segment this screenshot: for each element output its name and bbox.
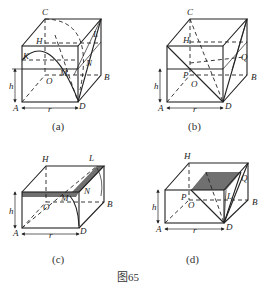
hidden-diagonal-edge — [165, 200, 189, 223]
front-face — [22, 192, 79, 228]
label-H: H — [41, 154, 49, 164]
label-A: A — [155, 224, 162, 234]
label-D: D — [79, 226, 87, 236]
hidden-diagonal-edge — [22, 75, 45, 102]
label-H: H — [182, 35, 190, 45]
label-P: P — [182, 70, 189, 80]
label-C: C — [187, 7, 194, 17]
label-h: h — [154, 81, 159, 91]
panel-caption-b: (b) — [188, 120, 201, 133]
figure-caption: 图65 — [117, 271, 140, 283]
label-N: N — [83, 186, 91, 196]
label-h: h — [9, 81, 14, 91]
label-P: P — [180, 192, 187, 202]
label-B: B — [252, 197, 258, 207]
label-H: H — [35, 36, 43, 46]
arc-front — [70, 196, 79, 226]
label-O: O — [46, 76, 53, 86]
label-C: C — [42, 7, 49, 17]
panel-b: C H Q P O B A D h r (b) — [154, 7, 257, 133]
label-Q: Q — [241, 173, 248, 183]
label-M: M — [60, 193, 69, 203]
label-A: A — [12, 228, 19, 238]
panel-caption-d: (d) — [186, 253, 199, 266]
label-L: L — [226, 191, 232, 201]
panel-a: C H L K N M O B A D h r (a) — [9, 7, 110, 133]
label-Q: Q — [241, 52, 248, 62]
label-H: H — [183, 151, 191, 161]
panel-caption-c: (c) — [52, 253, 65, 266]
panel-d: H Q P O L B A D h r (d) — [152, 151, 258, 266]
label-D: D — [225, 222, 233, 232]
label-D: D — [224, 101, 232, 111]
label-r: r — [48, 104, 52, 114]
label-L: L — [88, 153, 94, 163]
label-h: h — [152, 202, 157, 212]
label-K: K — [22, 51, 30, 61]
label-A: A — [12, 103, 19, 113]
top-face — [22, 19, 101, 46]
top-face — [22, 166, 104, 192]
shaded-quadrilateral — [191, 172, 241, 190]
diagonal-hidden — [190, 19, 223, 102]
label-r: r — [193, 225, 197, 235]
label-D: D — [78, 101, 86, 111]
label-N: N — [85, 58, 93, 68]
label-h: h — [9, 206, 14, 216]
label-O: O — [43, 202, 50, 212]
label-r: r — [49, 230, 53, 240]
front-face — [165, 190, 224, 223]
label-O: O — [191, 79, 198, 89]
label-M: M — [59, 68, 68, 78]
label-r: r — [193, 104, 197, 114]
diagonal-front — [167, 46, 223, 102]
panel-caption-a: (a) — [52, 120, 65, 133]
label-A: A — [157, 103, 164, 113]
label-O: O — [188, 200, 195, 210]
panel-c: H L M N O B A D h r (c) — [9, 153, 113, 266]
line-PD — [191, 190, 224, 223]
figure-65: C H L K N M O B A D h r (a) C H Q P O — [0, 0, 264, 287]
label-B: B — [107, 199, 113, 209]
label-B: B — [251, 72, 257, 82]
label-B: B — [104, 72, 110, 82]
label-L: L — [92, 29, 98, 39]
